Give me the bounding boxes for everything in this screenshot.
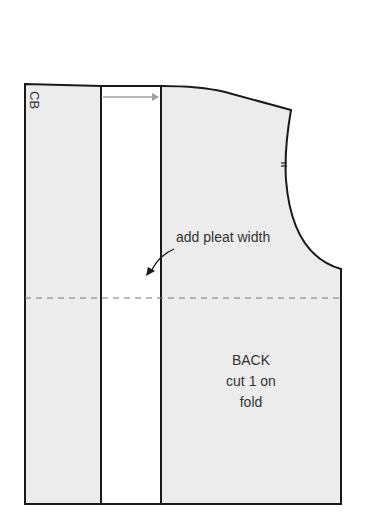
annotation-label: add pleat width xyxy=(176,229,270,245)
cut-instruction-label: cut 1 on xyxy=(226,373,276,389)
back-pattern-piece xyxy=(25,84,341,504)
cb-label: CB xyxy=(27,91,42,109)
pleat-insert-strip xyxy=(101,86,161,504)
piece-name-label: BACK xyxy=(232,352,271,368)
fold-instruction-label: fold xyxy=(240,394,263,410)
pattern-diagram: CB add pleat width BACK cut 1 on fold xyxy=(0,0,382,531)
